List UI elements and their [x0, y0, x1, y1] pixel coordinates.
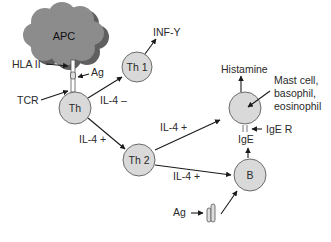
arrow-th1-inf: [145, 39, 156, 54]
mast-cell: [229, 92, 261, 124]
ige-r-label: IgE R: [266, 124, 292, 135]
th-label: Th: [69, 102, 81, 114]
tcr-label: TCR: [17, 95, 39, 106]
il4-plus-th-label: IL-4 +: [79, 134, 106, 145]
receptor-column: [71, 60, 76, 92]
ag-bottom-label: Ag: [173, 207, 186, 218]
ige-label: IgE: [238, 134, 254, 145]
il4-plus-mast-label: IL-4 +: [160, 122, 187, 133]
th1-label: Th 1: [126, 61, 147, 73]
histamine-label: Histamine: [221, 64, 268, 75]
il4-plus-b-label: IL-4 +: [173, 171, 200, 182]
b-label: B: [246, 169, 253, 181]
ag-top-label: Ag: [91, 67, 104, 78]
il4-minus-label: IL-4 –: [100, 95, 127, 106]
inf-label: INF-Y: [153, 27, 180, 38]
arrow-ag-b: [221, 191, 237, 214]
apc-label: APC: [53, 30, 76, 42]
hla-label: HLA II: [12, 59, 41, 70]
th2-label: Th 2: [128, 154, 149, 166]
arrow-ag-top: [78, 74, 89, 77]
antigen-icon: [207, 204, 215, 222]
ige-receptor-mark: [243, 125, 247, 132]
mast-label-line1: Mast cell,: [274, 75, 318, 86]
mast-label-line3: eosinophil: [274, 101, 321, 112]
mast-label-line2: basophil,: [274, 88, 316, 99]
